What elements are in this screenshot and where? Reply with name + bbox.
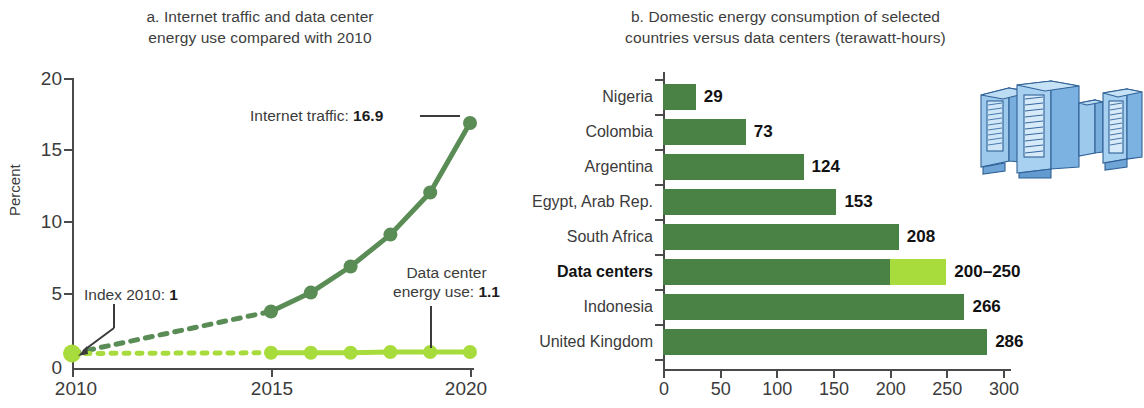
bar-fill [663,224,899,250]
annotation-index-2010: Index 2010: 1 [84,285,178,304]
bar-range-extension [890,259,947,285]
x-tick-200 [890,369,892,378]
data-point-markers [63,116,477,363]
bar-fill [663,329,987,355]
y-tick-15 [64,149,72,151]
panel-internet-traffic: a. Internet traffic and data center ener… [0,0,540,408]
data-center-energy-line [271,352,470,353]
bar-value-label: 208 [907,227,935,247]
bar-fill [663,154,804,180]
annotation-data-center-value: 1.1 [478,283,500,300]
data-point-internet-traffic-2016 [304,286,318,300]
data-point-internet-traffic-2015 [264,304,278,318]
bar-value-label: 200–250 [954,262,1020,282]
bar-row: Data centers200–250 [663,259,1011,285]
bar-category-tick [655,79,663,81]
bar-row: Nigeria29 [663,84,1011,110]
x-tick-50 [720,369,722,378]
bar-category-label: Data centers [557,263,653,281]
leader-line-internet-traffic [420,115,460,117]
bar-fill [663,259,890,285]
data-point-internet-traffic-2017 [344,260,358,274]
x-tick-label-200: 200 [876,379,906,400]
bar-fill [663,119,746,145]
data-point-data-center-energy-use-2018 [383,345,397,359]
bar-category-tick [655,324,663,326]
bar-category-label: United Kingdom [539,333,653,351]
y-tick-20 [64,78,72,80]
bar-row: United Kingdom286 [663,329,1011,355]
server-racks-illustration [979,79,1144,179]
leader-line-data-center [430,306,432,348]
data-point-internet-traffic-2018 [383,228,397,242]
annotation-internet-traffic-value: 16.9 [353,107,383,124]
bar-row: Indonesia266 [663,294,1011,320]
data-point-data-center-energy-use-2015 [264,346,278,360]
x-tick-0 [663,369,665,378]
y-tick-label-15: 15 [41,139,62,161]
bar-row: South Africa208 [663,224,1011,250]
x-axis-b [663,369,1011,371]
bar-category-label: South Africa [567,228,653,246]
bar-fill [663,189,836,215]
x-tick-150 [833,369,835,378]
data-point-data-center-energy-use-2020 [463,345,477,359]
x-tick-label-0: 0 [659,379,669,400]
chart-b-title-line2: countries versus data centers (terawatt-… [540,27,1031,48]
bar-fill [663,294,964,320]
annotation-index-2010-value: 1 [169,286,178,303]
y-axis-b [663,72,665,370]
annotation-index-2010-prefix: Index 2010: [84,286,169,303]
leader-line-index-diagonal [78,324,122,354]
x-tick-label-300: 300 [989,379,1019,400]
annotation-data-center-prefix: energy use: [393,283,478,300]
bar-category-tick [655,114,663,116]
x-tick-300 [1003,369,1005,378]
chart-b-title: b. Domestic energy consumption of select… [540,6,1031,48]
line-plot-area: 20 15 10 5 0 2010 2015 2020 Index 2010: … [72,78,474,370]
y-tick-label-10: 10 [41,211,62,233]
bar-fill [663,84,696,110]
y-tick-label-20: 20 [41,68,62,90]
panel-energy-consumption: b. Domestic energy consumption of select… [540,0,1031,408]
bar-row: Egypt, Arab Rep.153 [663,189,1011,215]
bar-row: Argentina124 [663,154,1011,180]
bar-category-label: Nigeria [602,88,653,106]
bar-value-label: 266 [972,297,1000,317]
bar-value-label: 29 [704,87,723,107]
bar-value-label: 286 [995,332,1023,352]
bar-value-label: 153 [844,192,872,212]
bar-category-label: Argentina [585,158,654,176]
y-tick-label-5: 5 [51,283,62,305]
y-tick-10 [64,221,72,223]
bar-value-label: 73 [754,122,773,142]
annotation-data-center-line1: Data center [406,264,486,281]
bar-category-tick [655,184,663,186]
bar-category-tick [655,219,663,221]
x-tick-100 [776,369,778,378]
x-tick-label-100: 100 [762,379,792,400]
data-point-data-center-energy-use-2017 [344,346,358,360]
data-point-data-center-energy-use-2016 [304,346,318,360]
bar-plot-area: Nigeria29Colombia73Argentina124Egypt, Ar… [663,72,1011,372]
x-tick-label-2020: 2020 [445,378,487,400]
bar-category-tick [655,289,663,291]
bar-category-label: Colombia [585,123,653,141]
x-tick-label-50: 50 [711,379,731,400]
chart-b-title-line1: b. Domestic energy consumption of select… [540,6,1031,27]
data-point-internet-traffic-2019 [423,186,437,200]
annotation-internet-traffic: Internet traffic: 16.9 [250,106,383,125]
bar-category-label: Indonesia [584,298,653,316]
annotation-data-center-energy: Data center energy use: 1.1 [384,263,509,301]
bar-category-label: Egypt, Arab Rep. [532,193,653,211]
bar-category-tick [655,254,663,256]
bar-category-tick [655,359,663,361]
bar-row: Colombia73 [663,119,1011,145]
y-tick-label-0: 0 [51,357,62,379]
y-axis-title-a: Percent [6,164,23,216]
chart-a-title: a. Internet traffic and data center ener… [30,6,490,48]
x-tick-label-2010: 2010 [55,378,97,400]
bar-category-tick [655,149,663,151]
x-tick-label-2015: 2015 [251,378,293,400]
annotation-internet-traffic-prefix: Internet traffic: [250,107,353,124]
